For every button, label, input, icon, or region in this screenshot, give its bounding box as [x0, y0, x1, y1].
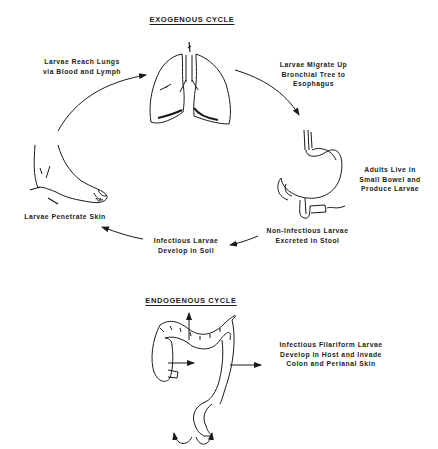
endogenous-cycle-title: ENDOGENOUS CYCLE	[144, 296, 238, 305]
foot-icon	[30, 145, 107, 204]
label-larvae-migrate: Larvae Migrate Up Bronchial Tree to Esop…	[266, 60, 361, 89]
label-non-infectious-stool: Non-Infectious Larvae Excreted in Stool	[255, 226, 360, 245]
arrow-to-skin	[102, 227, 143, 239]
label-larvae-reach-lungs: Larvae Reach Lungs via Blood and Lymph	[30, 57, 134, 76]
arrow-to-lungs	[58, 75, 146, 131]
label-infectious-soil: Infectious Larvae Develop in Soil	[143, 236, 229, 255]
arrow-curl-right	[196, 433, 212, 444]
stomach-intestine-icon	[278, 130, 345, 218]
arrow-to-soil	[230, 236, 258, 245]
lungs-icon	[150, 42, 230, 124]
colon-icon	[152, 316, 235, 436]
label-filariform-larvae: Infectious Filariform Larvae Develop in …	[268, 340, 394, 369]
label-penetrate-skin: Larvae Penetrate Skin	[10, 212, 120, 222]
label-adults-small-bowel: Adults Live in Small Bowel and Produce L…	[350, 165, 430, 194]
arrow-curl-left	[174, 433, 192, 444]
